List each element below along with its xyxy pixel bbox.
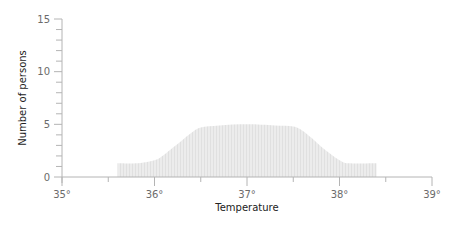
y-axis: 051015 — [37, 14, 62, 184]
x-tick-label: 37° — [238, 189, 256, 200]
x-tick-label: 39° — [423, 189, 441, 200]
y-tick-label: 5 — [44, 119, 50, 130]
y-tick-label: 10 — [37, 66, 50, 77]
x-tick-label: 36° — [146, 189, 164, 200]
y-tick-label: 15 — [37, 14, 50, 25]
y-axis-title: Number of persons — [17, 50, 28, 146]
x-tick-label: 35° — [53, 189, 71, 200]
temperature-area-chart: 051015 35°36°37°38°39° Number of persons… — [0, 0, 455, 226]
y-tick-label: 0 — [44, 172, 50, 183]
x-axis: 35°36°37°38°39° — [53, 177, 441, 200]
data-area — [118, 124, 377, 177]
plot-area — [118, 124, 377, 177]
x-axis-title: Temperature — [214, 202, 278, 213]
x-tick-label: 38° — [331, 189, 349, 200]
